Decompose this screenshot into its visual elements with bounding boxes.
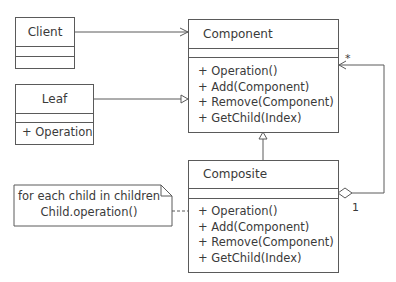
operation: + Operation() <box>198 204 334 220</box>
uml-diagram-canvas: Client Leaf + Operation Component + Oper… <box>0 0 396 282</box>
class-name: Leaf <box>16 92 93 106</box>
note-text: for each child in children Child.operati… <box>14 188 164 220</box>
operation: + Add(Component) <box>198 220 334 236</box>
class-composite[interactable]: Composite + Operation() + Add(Component)… <box>188 160 339 273</box>
hollow-diamond-icon <box>338 188 352 198</box>
class-leaf[interactable]: Leaf + Operation <box>15 84 94 145</box>
attributes-divider <box>16 46 74 47</box>
operation: + Remove(Component) <box>198 235 334 251</box>
operation: + Operation <box>22 125 93 141</box>
operations-divider <box>189 57 338 58</box>
hollow-triangle-icon <box>181 95 188 103</box>
composite-aggregation <box>338 61 384 198</box>
class-name: Client <box>16 25 74 39</box>
composite-component-generalization <box>259 132 267 160</box>
attributes-divider <box>189 48 338 49</box>
operations-divider <box>16 122 93 123</box>
leaf-component-generalization <box>93 95 188 103</box>
operation: + Operation() <box>198 64 334 80</box>
multiplicity-star: * <box>345 52 351 65</box>
attributes-divider <box>189 188 338 189</box>
multiplicity-one: 1 <box>352 201 359 214</box>
class-client[interactable]: Client <box>15 17 75 69</box>
note-line: for each child in children <box>14 188 164 204</box>
client-component-association <box>74 28 188 36</box>
operations-list: + Operation() + Add(Component) + Remove(… <box>198 204 334 266</box>
operation: + Add(Component) <box>198 80 334 96</box>
class-name: Composite <box>203 167 267 181</box>
attributes-divider <box>16 113 93 114</box>
operations-list: + Operation() + Add(Component) + Remove(… <box>198 64 334 126</box>
class-component[interactable]: Component + Operation() + Add(Component)… <box>188 19 339 133</box>
operation: + GetChild(Index) <box>198 111 334 127</box>
operations-divider <box>16 56 74 57</box>
operation: + Remove(Component) <box>198 95 334 111</box>
hollow-triangle-icon <box>259 132 267 139</box>
operations-divider <box>189 198 338 199</box>
note-line: Child.operation() <box>14 204 164 220</box>
operation: + GetChild(Index) <box>198 251 334 267</box>
class-name: Component <box>203 27 273 41</box>
